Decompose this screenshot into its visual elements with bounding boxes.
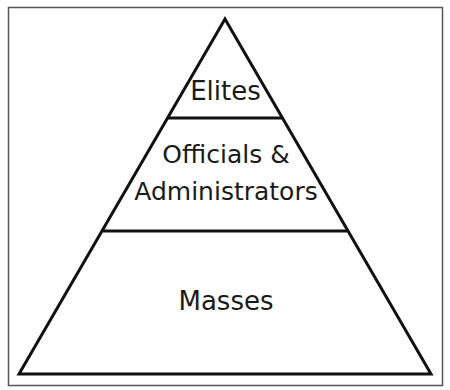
level-label-elites: Elites [190, 76, 261, 106]
level-label-officials-line2: Administrators [134, 177, 317, 206]
level-elites: Elites [190, 76, 261, 106]
level-label-officials-line1: Officials & [162, 140, 289, 169]
level-masses: Masses [179, 286, 274, 316]
pyramid-diagram: Elites Officials & Administrators Masses [0, 0, 450, 390]
level-label-masses: Masses [179, 286, 274, 316]
